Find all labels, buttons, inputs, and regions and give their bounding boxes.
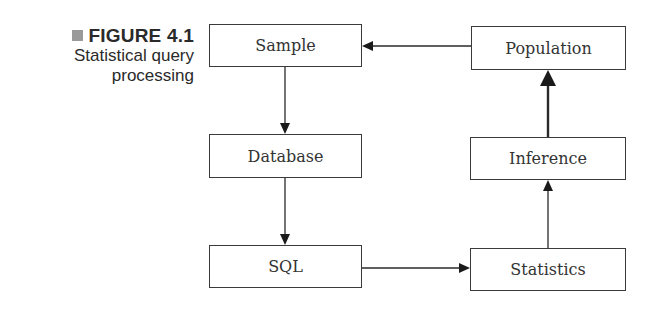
- node-statistics: Statistics: [470, 248, 626, 291]
- node-inference: Inference: [470, 137, 626, 180]
- node-database: Database: [209, 134, 362, 178]
- arrowhead-left-icon: [362, 41, 373, 51]
- arrowhead-up-icon: [543, 180, 553, 191]
- node-sql: SQL: [209, 245, 362, 288]
- arrowhead-right-icon: [459, 263, 470, 273]
- node-sample: Sample: [209, 24, 362, 67]
- arrowhead-down-icon: [280, 234, 290, 245]
- node-population: Population: [471, 26, 626, 70]
- arrowhead-up-bold-icon: [540, 70, 556, 86]
- arrowhead-down-icon: [280, 123, 290, 134]
